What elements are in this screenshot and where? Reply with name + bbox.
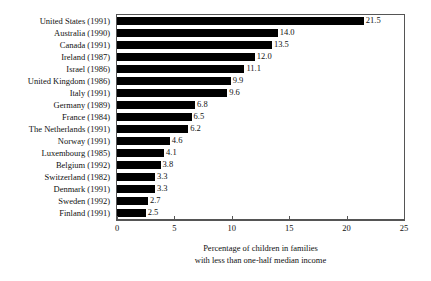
bar-value-label: 21.5 [366, 14, 381, 26]
bar-value-label: 9.9 [233, 74, 244, 86]
bar [117, 125, 188, 133]
category-label: Canada (1991) [0, 39, 113, 51]
category-label: Italy (1991) [0, 87, 113, 99]
bar [117, 149, 164, 157]
category-label: Switzerland (1982) [0, 171, 113, 183]
category-label: Denmark (1991) [0, 183, 113, 195]
bar-value-label: 14.0 [280, 26, 295, 38]
x-axis-tick-label: 5 [172, 223, 176, 234]
bar-row: 9.9 [117, 75, 404, 87]
category-label: Sweden (1992) [0, 195, 113, 207]
bar-row: 6.2 [117, 123, 404, 135]
bar-value-label: 11.1 [246, 62, 261, 74]
x-axis-tick-label: 25 [400, 223, 409, 234]
bar [117, 197, 148, 205]
category-label: Norway (1991) [0, 135, 113, 147]
bar-value-label: 6.5 [194, 110, 205, 122]
bar-value-label: 3.3 [157, 170, 168, 182]
bar [117, 29, 278, 37]
bar-row: 11.1 [117, 63, 404, 75]
x-axis-tick-label: 0 [115, 223, 119, 234]
bar [117, 53, 255, 61]
bar [117, 89, 227, 97]
category-label: Finland (1991) [0, 207, 113, 219]
bar-row: 6.5 [117, 111, 404, 123]
x-axis-tick-label: 15 [285, 223, 294, 234]
x-axis-tick [232, 216, 233, 220]
category-label: Belgium (1992) [0, 159, 113, 171]
x-axis-tick [117, 216, 118, 220]
bar [117, 17, 364, 25]
caption-line: Percentage of children in families [116, 243, 405, 255]
bar [117, 65, 244, 73]
bar [117, 209, 146, 217]
bar [117, 113, 192, 121]
bar-row: 4.6 [117, 135, 404, 147]
bar [117, 137, 170, 145]
category-axis-labels: United States (1991)Australia (1990)Cana… [0, 15, 113, 219]
x-axis: 0510152025 [116, 220, 405, 221]
bar-row: 21.5 [117, 15, 404, 27]
bar [117, 101, 195, 109]
x-axis-tick [404, 216, 405, 220]
bar-value-label: 6.8 [197, 98, 208, 110]
category-label: Ireland (1987) [0, 51, 113, 63]
caption-line: with less than one-half median income [116, 255, 405, 267]
bar-row: 2.7 [117, 195, 404, 207]
category-label: The Netherlands (1991) [0, 123, 113, 135]
x-axis-tick-label: 10 [228, 223, 237, 234]
x-axis-tick [347, 216, 348, 220]
bar-row: 4.1 [117, 147, 404, 159]
bar-value-label: 4.1 [166, 146, 177, 158]
x-axis-tick [289, 216, 290, 220]
category-label: Israel (1986) [0, 63, 113, 75]
bar-row: 14.0 [117, 27, 404, 39]
bar [117, 77, 231, 85]
category-label: Australia (1990) [0, 27, 113, 39]
x-axis-tick-label: 20 [342, 223, 351, 234]
bar-value-label: 3.8 [163, 158, 174, 170]
category-label: Germany (1989) [0, 99, 113, 111]
bar-value-label: 2.7 [150, 194, 161, 206]
bar [117, 161, 161, 169]
bar-value-label: 6.2 [190, 122, 201, 134]
bars-container: 21.514.013.512.011.19.99.66.86.56.24.64.… [117, 15, 404, 219]
bar-row: 2.5 [117, 207, 404, 219]
bar-value-label: 2.5 [148, 206, 159, 218]
bar-value-label: 4.6 [172, 134, 183, 146]
category-label: France (1984) [0, 111, 113, 123]
bar-chart-figure: United States (1991)Australia (1990)Cana… [0, 0, 431, 281]
bar-value-label: 12.0 [257, 50, 272, 62]
category-label: United States (1991) [0, 15, 113, 27]
bar [117, 41, 272, 49]
x-axis-tick [174, 216, 175, 220]
bar-row: 9.6 [117, 87, 404, 99]
bar-value-label: 3.3 [157, 182, 168, 194]
bar-row: 6.8 [117, 99, 404, 111]
bar-value-label: 9.6 [229, 86, 240, 98]
category-label: Luxembourg (1985) [0, 147, 113, 159]
category-label: United Kingdom (1986) [0, 75, 113, 87]
bar [117, 185, 155, 193]
x-axis-caption: Percentage of children in familieswith l… [116, 243, 405, 266]
bar-value-label: 13.5 [274, 38, 289, 50]
bar [117, 173, 155, 181]
